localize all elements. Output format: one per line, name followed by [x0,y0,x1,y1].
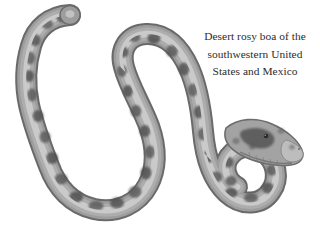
caption-line-1: Desert rosy boa of the [192,28,318,46]
illustration-page: Desert rosy boa of the southwestern Unit… [0,0,320,243]
caption-line-3: States and Mexico [192,63,318,81]
caption-line-2: southwestern United [192,46,318,64]
caption: Desert rosy boa of the southwestern Unit… [192,28,318,81]
